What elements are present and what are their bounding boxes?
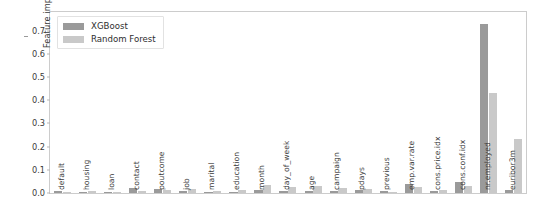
bar-group: previous bbox=[376, 12, 401, 193]
bar-xgboost bbox=[355, 190, 363, 193]
bar-random-forest bbox=[439, 190, 447, 193]
bar-group: cons.price.idx bbox=[426, 12, 451, 193]
bar-random-forest bbox=[138, 191, 146, 193]
bar-xgboost bbox=[79, 192, 87, 193]
x-axis-tick-label: age bbox=[307, 176, 316, 190]
x-axis-tick-label: campaign bbox=[332, 152, 341, 190]
bar-xgboost bbox=[229, 192, 237, 193]
bar-xgboost bbox=[54, 191, 62, 193]
bar-group: euribor3m bbox=[501, 12, 526, 193]
bar-group: campaign bbox=[326, 12, 351, 193]
bar-random-forest bbox=[63, 192, 71, 193]
legend-label: XGBoost bbox=[91, 21, 128, 31]
bar-group: age bbox=[301, 12, 326, 193]
legend-swatch-icon bbox=[63, 23, 84, 30]
bar-xgboost bbox=[104, 192, 112, 193]
bar-group: marital bbox=[200, 12, 225, 193]
bar-xgboost bbox=[330, 191, 338, 193]
chart-legend: XGBoost Random Forest bbox=[57, 16, 164, 49]
bar-xgboost bbox=[380, 191, 388, 193]
legend-item-random-forest: Random Forest bbox=[63, 34, 156, 44]
y-axis-stray-tick bbox=[24, 36, 28, 37]
bar-group: education bbox=[225, 12, 250, 193]
plot-area: Feature importances 0.00.10.20.30.40.50.… bbox=[49, 11, 527, 194]
x-axis-tick-label: previous bbox=[382, 157, 391, 190]
bar-group: emp.var.rate bbox=[401, 12, 426, 193]
bar-random-forest bbox=[213, 191, 221, 193]
bar-random-forest bbox=[88, 191, 96, 193]
x-axis-tick-label: education bbox=[232, 152, 241, 190]
feature-importances-chart: Feature importances 0.00.10.20.30.40.50.… bbox=[0, 0, 541, 209]
bar-random-forest bbox=[163, 190, 171, 193]
x-axis-tick-label: nr.employed bbox=[483, 142, 492, 190]
x-axis-tick-label: contact bbox=[132, 161, 141, 190]
legend-item-xgboost: XGBoost bbox=[63, 21, 156, 31]
x-axis-tick-label: default bbox=[57, 163, 66, 190]
bar-random-forest bbox=[238, 190, 246, 193]
x-axis-tick-label: euribor3m bbox=[508, 150, 517, 190]
x-axis-tick-label: poutcome bbox=[157, 151, 166, 190]
x-axis-tick-label: pdays bbox=[357, 167, 366, 190]
bar-random-forest bbox=[113, 192, 121, 193]
x-axis-tick-label: marital bbox=[207, 163, 216, 190]
bar-xgboost bbox=[254, 190, 262, 193]
bar-group: pdays bbox=[351, 12, 376, 193]
bar-group: job bbox=[175, 12, 200, 193]
legend-swatch-icon bbox=[63, 36, 84, 43]
legend-label: Random Forest bbox=[91, 34, 156, 44]
x-axis-tick-label: emp.var.rate bbox=[407, 141, 416, 190]
bar-group: cons.conf.idx bbox=[451, 12, 476, 193]
bar-group: nr.employed bbox=[476, 12, 501, 193]
bar-xgboost bbox=[204, 192, 212, 193]
bar-random-forest bbox=[388, 192, 396, 193]
x-axis-tick-label: cons.conf.idx bbox=[458, 140, 467, 190]
bar-group: month bbox=[250, 12, 275, 193]
x-axis-tick-label: loan bbox=[107, 174, 116, 190]
x-axis-tick-label: job bbox=[182, 178, 191, 190]
x-axis-tick-label: day_of_week bbox=[282, 141, 291, 190]
x-axis-tick-label: cons.price.idx bbox=[433, 137, 442, 190]
x-axis-tick-label: housing bbox=[82, 160, 91, 190]
bar-xgboost bbox=[179, 191, 187, 193]
bar-xgboost bbox=[505, 190, 513, 193]
bar-group: day_of_week bbox=[275, 12, 300, 193]
bar-xgboost bbox=[305, 191, 313, 193]
bar-xgboost bbox=[279, 191, 287, 193]
bar-xgboost bbox=[430, 191, 438, 193]
x-axis-tick-label: month bbox=[257, 165, 266, 190]
